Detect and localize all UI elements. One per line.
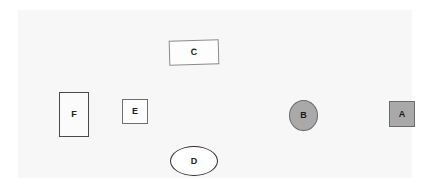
shape-e-label: E — [132, 107, 138, 116]
shape-e[interactable]: E — [122, 99, 148, 124]
diagram-canvas: F E C D B A — [18, 10, 412, 178]
shape-f-label: F — [71, 110, 77, 119]
shape-d[interactable]: D — [170, 146, 218, 176]
shape-a-label: A — [399, 110, 406, 119]
shape-b[interactable]: B — [289, 100, 318, 131]
shape-c[interactable]: C — [169, 39, 220, 65]
shape-a[interactable]: A — [389, 101, 415, 127]
shape-f[interactable]: F — [59, 92, 89, 137]
shape-d-label: D — [191, 157, 198, 166]
shape-b-label: B — [300, 111, 307, 120]
shape-c-label: C — [191, 48, 198, 57]
diagram-stage: F E C D B A — [0, 0, 428, 189]
